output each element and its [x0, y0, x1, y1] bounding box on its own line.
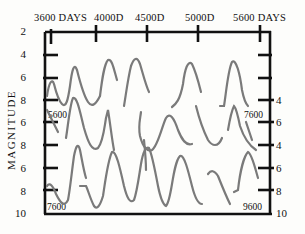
- light-curve-chart: 3600 DAYS 4000D 4500D 5000D 5600 DAYS MA…: [0, 0, 305, 234]
- plot-area: [0, 0, 305, 234]
